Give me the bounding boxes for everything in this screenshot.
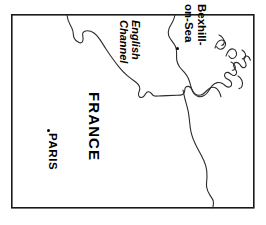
label-bexhill-line-1: Bexhill- — [196, 4, 208, 46]
label-bexhill-line-2: on-Sea — [183, 4, 196, 46]
city-marker-bexhill-on-sea — [176, 47, 179, 50]
label-english-channel: English Channel — [118, 20, 142, 63]
label-channel-line-2: Channel — [118, 20, 130, 63]
label-france: FRANCE — [86, 92, 103, 161]
city-marker-paris — [47, 129, 50, 132]
label-channel-line-1: English — [130, 20, 142, 63]
label-bexhill-on-sea: Bexhill- on-Sea — [183, 4, 208, 46]
map-figure: Bexhill- on-Sea English Channel FRANCE P… — [0, 0, 266, 225]
label-paris: PARIS — [47, 133, 59, 170]
